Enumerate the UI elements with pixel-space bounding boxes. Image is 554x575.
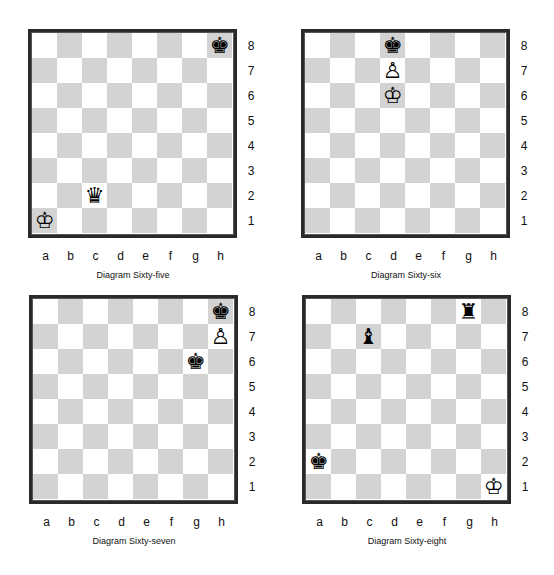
file-labels: abcdefgh	[34, 515, 234, 531]
square-c8	[83, 299, 108, 324]
square-a1	[305, 208, 330, 233]
file-label: f	[431, 249, 456, 265]
square-g5	[182, 108, 207, 133]
square-a6	[33, 349, 58, 374]
square-a1	[33, 474, 58, 499]
square-a1	[306, 474, 331, 499]
square-d6: ♔	[380, 83, 405, 108]
diagram-65: ♚♛♔87654321abcdefghDiagram Sixty-five	[28, 29, 298, 304]
square-g1	[456, 474, 481, 499]
square-f1	[430, 208, 455, 233]
square-a6	[306, 349, 331, 374]
square-c7	[355, 58, 380, 83]
square-b7	[57, 58, 82, 83]
square-d3	[381, 424, 406, 449]
square-h3	[207, 158, 232, 183]
square-d6	[381, 349, 406, 374]
rank-label: 5	[245, 375, 259, 400]
square-a8	[305, 33, 330, 58]
square-d3	[108, 424, 133, 449]
square-h3	[481, 424, 506, 449]
rank-label: 1	[244, 209, 258, 234]
square-a4	[306, 399, 331, 424]
square-d2	[107, 183, 132, 208]
square-c6	[83, 349, 108, 374]
rank-label: 7	[517, 59, 531, 84]
square-e2	[406, 449, 431, 474]
square-e2	[132, 183, 157, 208]
square-b5	[330, 108, 355, 133]
square-d1	[107, 208, 132, 233]
square-b3	[331, 424, 356, 449]
square-f3	[157, 158, 182, 183]
square-g3	[455, 158, 480, 183]
square-f6	[430, 83, 455, 108]
square-e6	[132, 83, 157, 108]
rank-labels: 87654321	[517, 34, 531, 234]
square-b6	[330, 83, 355, 108]
square-d8	[381, 299, 406, 324]
file-label: d	[108, 249, 133, 265]
square-c1	[83, 474, 108, 499]
square-d6	[107, 83, 132, 108]
square-c2	[355, 183, 380, 208]
white-pawn-icon: ♙	[383, 58, 403, 83]
square-h4	[207, 133, 232, 158]
square-c5	[83, 374, 108, 399]
square-h6	[208, 349, 233, 374]
square-a6	[32, 83, 57, 108]
square-b2	[58, 449, 83, 474]
square-d8	[107, 33, 132, 58]
black-king-icon: ♚	[210, 33, 230, 58]
square-c8	[356, 299, 381, 324]
square-h1	[208, 474, 233, 499]
square-f7	[157, 58, 182, 83]
square-f8	[158, 299, 183, 324]
white-king-icon: ♔	[383, 83, 403, 108]
square-b1	[58, 474, 83, 499]
square-g1	[183, 474, 208, 499]
file-label: b	[332, 515, 357, 531]
square-g1	[182, 208, 207, 233]
square-c4	[82, 133, 107, 158]
file-label: g	[457, 515, 482, 531]
square-g8	[182, 33, 207, 58]
rank-label: 1	[518, 475, 532, 500]
diagram-68: ♜♝♚♔87654321abcdefghDiagram Sixty-eight	[302, 295, 554, 570]
rank-label: 2	[245, 450, 259, 475]
square-a2: ♚	[306, 449, 331, 474]
square-c5	[82, 108, 107, 133]
square-h4	[208, 399, 233, 424]
square-f2	[430, 183, 455, 208]
square-a6	[305, 83, 330, 108]
square-e8	[406, 299, 431, 324]
square-d5	[380, 108, 405, 133]
square-a5	[33, 374, 58, 399]
square-d8	[108, 299, 133, 324]
square-f5	[158, 374, 183, 399]
square-e7	[132, 58, 157, 83]
file-labels: abcdefgh	[306, 249, 506, 265]
file-label: d	[382, 515, 407, 531]
file-label: h	[208, 249, 233, 265]
square-e3	[133, 424, 158, 449]
file-label: a	[34, 515, 59, 531]
square-c4	[83, 399, 108, 424]
file-label: h	[482, 515, 507, 531]
square-b5	[331, 374, 356, 399]
black-king-icon: ♚	[211, 299, 231, 324]
rank-label: 1	[517, 209, 531, 234]
chess-board: ♜♝♚♔	[306, 299, 506, 499]
square-h6	[207, 83, 232, 108]
square-f4	[158, 399, 183, 424]
square-d5	[107, 108, 132, 133]
square-f8	[431, 299, 456, 324]
square-d5	[108, 374, 133, 399]
rank-label: 1	[245, 475, 259, 500]
rank-label: 3	[244, 159, 258, 184]
rank-label: 5	[517, 109, 531, 134]
rank-labels: 87654321	[244, 34, 258, 234]
square-f2	[157, 183, 182, 208]
square-b6	[331, 349, 356, 374]
rank-label: 7	[244, 59, 258, 84]
